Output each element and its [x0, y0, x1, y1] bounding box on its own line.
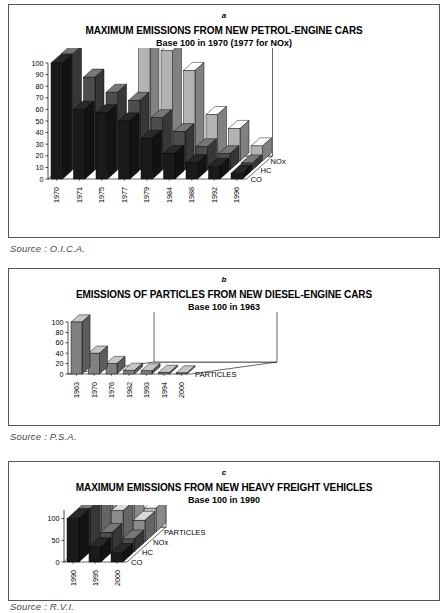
svg-text:1963: 1963 — [72, 382, 81, 398]
bar — [119, 113, 140, 179]
svg-text:100: 100 — [32, 59, 44, 68]
bar — [67, 510, 89, 562]
figure-letter-c: c — [9, 468, 439, 477]
plot-area-b: 0204060801001963197019761982199319942000… — [9, 312, 439, 422]
svg-text:1992: 1992 — [210, 187, 219, 203]
svg-text:1970: 1970 — [90, 382, 99, 398]
svg-text:20: 20 — [36, 151, 44, 160]
source-note-c: Source : R.V.I. — [10, 601, 74, 612]
bar — [141, 130, 162, 179]
source-note-a: Source : O.I.C.A. — [10, 243, 85, 254]
svg-text:0: 0 — [56, 558, 60, 567]
chart-panel-a: a MAXIMUM EMISSIONS FROM NEW PETROL-ENGI… — [8, 4, 440, 238]
bar — [74, 101, 95, 179]
svg-text:2000: 2000 — [177, 382, 186, 398]
svg-text:1976: 1976 — [107, 382, 116, 398]
svg-text:HC: HC — [142, 548, 153, 557]
svg-text:40: 40 — [36, 128, 44, 137]
svg-text:1995: 1995 — [91, 570, 100, 586]
svg-text:10: 10 — [36, 163, 44, 172]
chart-svg-c: 050100199019952000COHCNOxPARTICLES — [9, 505, 440, 600]
svg-text:1982: 1982 — [125, 382, 134, 398]
svg-text:1984: 1984 — [165, 187, 174, 203]
svg-text:100: 100 — [52, 318, 64, 327]
bar — [96, 105, 117, 179]
svg-text:1970: 1970 — [52, 187, 61, 203]
svg-text:20: 20 — [56, 359, 64, 368]
svg-text:HC: HC — [261, 166, 272, 175]
svg-text:50: 50 — [36, 117, 44, 126]
svg-text:CO: CO — [131, 558, 142, 567]
chart-subtitle-b: Base 100 in 1963 — [9, 302, 439, 312]
chart-svg-b: 0204060801001963197019761982199319942000… — [9, 312, 440, 422]
svg-text:NOx: NOx — [271, 157, 286, 166]
chart-panel-b: b EMISSIONS OF PARTICLES FROM NEW DIESEL… — [8, 268, 440, 426]
svg-text:1993: 1993 — [142, 382, 151, 398]
svg-text:CO: CO — [251, 175, 262, 184]
chart-svg-a: 0102030405060708090100197019711975197719… — [9, 48, 440, 228]
svg-text:1994: 1994 — [160, 382, 169, 398]
chart-title-c: MAXIMUM EMISSIONS FROM NEW HEAVY FREIGHT… — [9, 482, 439, 493]
svg-text:30: 30 — [36, 140, 44, 149]
chart-title-a: MAXIMUM EMISSIONS FROM NEW PETROL-ENGINE… — [9, 25, 439, 36]
plot-area-c: 050100199019952000COHCNOxPARTICLES — [9, 505, 439, 600]
chart-title-b: EMISSIONS OF PARTICLES FROM NEW DIESEL-E… — [9, 289, 439, 300]
figure-page: a MAXIMUM EMISSIONS FROM NEW PETROL-ENGI… — [0, 0, 448, 613]
svg-text:1996: 1996 — [232, 187, 241, 203]
chart-subtitle-a: Base 100 in 1970 (1977 for NOx) — [9, 38, 439, 48]
svg-text:40: 40 — [56, 349, 64, 358]
svg-text:80: 80 — [56, 328, 64, 337]
bar — [71, 315, 90, 374]
svg-text:NOx: NOx — [153, 538, 168, 547]
source-note-b: Source : P.S.A. — [10, 431, 77, 442]
svg-text:0: 0 — [40, 175, 44, 184]
svg-text:1979: 1979 — [142, 187, 151, 203]
plot-area-a: 0102030405060708090100197019711975197719… — [9, 48, 439, 228]
svg-text:2000: 2000 — [113, 570, 122, 586]
svg-text:1990: 1990 — [69, 570, 78, 586]
bar — [164, 145, 185, 179]
svg-text:100: 100 — [48, 514, 60, 523]
figure-letter-a: a — [9, 11, 439, 20]
svg-text:1988: 1988 — [187, 187, 196, 203]
svg-text:60: 60 — [56, 338, 64, 347]
svg-text:70: 70 — [36, 93, 44, 102]
bar — [51, 55, 72, 179]
svg-text:1971: 1971 — [75, 187, 84, 203]
svg-text:50: 50 — [52, 536, 60, 545]
svg-text:1975: 1975 — [97, 187, 106, 203]
svg-text:80: 80 — [36, 82, 44, 91]
svg-text:PARTICLES: PARTICLES — [164, 528, 206, 537]
svg-text:60: 60 — [36, 105, 44, 114]
chart-panel-c: c MAXIMUM EMISSIONS FROM NEW HEAVY FREIG… — [8, 461, 440, 601]
svg-text:90: 90 — [36, 70, 44, 79]
figure-letter-b: b — [9, 275, 439, 284]
svg-text:PARTICLES: PARTICLES — [195, 370, 237, 379]
chart-subtitle-c: Base 100 in 1990 — [9, 495, 439, 505]
svg-text:1977: 1977 — [120, 187, 129, 203]
svg-text:0: 0 — [60, 370, 64, 379]
